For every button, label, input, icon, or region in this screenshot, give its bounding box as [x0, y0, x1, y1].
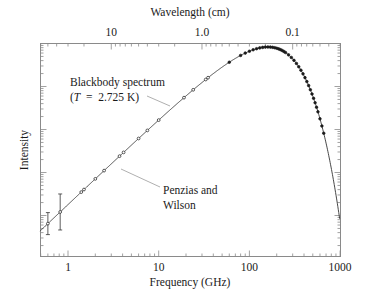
data-point — [183, 96, 186, 99]
annotation-blackbody-line2: (T = 2.725 K) — [70, 91, 139, 104]
x-tick-label: 1 — [65, 261, 71, 273]
data-point — [228, 61, 231, 64]
data-point — [239, 54, 242, 57]
data-point — [293, 59, 296, 62]
data-point — [80, 191, 83, 194]
data-point — [261, 46, 264, 49]
axis-tick-labels: 1101001000101.00.1 — [65, 26, 352, 273]
data-point — [297, 65, 300, 68]
annotation-leader-line — [121, 169, 160, 187]
data-point — [137, 137, 140, 140]
data-point — [290, 56, 293, 59]
cmb-spectrum-chart: Wavelength (cm) Frequency (GHz) Intensit… — [0, 0, 366, 293]
bottom-axis-title: Frequency (GHz) — [150, 276, 231, 289]
annotation-pw-line2: Wilson — [163, 199, 196, 211]
x-tick-label: 1000 — [329, 261, 352, 273]
data-point — [287, 54, 290, 57]
data-point — [304, 76, 307, 79]
data-point — [94, 177, 97, 180]
x2-tick-label: 10 — [106, 26, 118, 38]
data-point — [157, 119, 160, 122]
data-point — [309, 88, 312, 91]
data-point — [302, 73, 305, 76]
data-point — [59, 211, 62, 214]
data-point — [244, 52, 247, 55]
data-point — [314, 101, 317, 104]
data-point — [83, 188, 86, 191]
data-point — [255, 47, 258, 50]
data-point — [322, 132, 325, 135]
data-point — [295, 62, 298, 65]
data-point — [311, 93, 314, 96]
annotation-penzias-wilson: Penzias and Wilson — [121, 169, 218, 211]
x-tick-label: 10 — [153, 261, 165, 273]
x-tick-label: 100 — [241, 261, 259, 273]
data-point — [118, 155, 121, 158]
x2-tick-label: 1.0 — [195, 26, 210, 38]
annotation-blackbody-line1: Blackbody spectrum — [70, 76, 165, 89]
data-point — [192, 88, 195, 91]
data-point — [122, 151, 125, 154]
top-axis-title: Wavelength (cm) — [150, 6, 229, 19]
data-point — [319, 118, 322, 121]
data-point — [300, 69, 303, 72]
annotation-blackbody: Blackbody spectrum (T = 2.725 K) — [70, 76, 170, 106]
data-point — [284, 51, 287, 54]
data-point — [321, 125, 324, 128]
data-point — [317, 111, 320, 114]
temperature-value: = 2.725 K) — [80, 91, 139, 104]
data-point — [258, 47, 261, 50]
data-point — [307, 84, 310, 87]
annotation-leader-line — [147, 96, 170, 106]
data-point — [312, 97, 315, 100]
data-point — [146, 129, 149, 132]
data-point — [252, 48, 255, 51]
data-point — [248, 50, 251, 53]
data-point — [306, 80, 309, 83]
x2-tick-label: 0.1 — [285, 26, 300, 38]
data-point — [46, 222, 49, 225]
data-point — [103, 169, 106, 172]
data-point — [207, 76, 210, 79]
left-axis-title: Intensity — [18, 130, 31, 170]
annotation-pw-line1: Penzias and — [163, 184, 218, 196]
data-point — [315, 106, 318, 109]
